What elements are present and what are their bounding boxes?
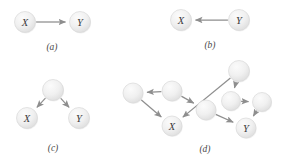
- panel-caption-a: (a): [46, 42, 57, 53]
- node-d-y[interactable]: Y: [236, 118, 257, 139]
- edge-d-n4-to-d-n5: [234, 82, 236, 88]
- node-circle[interactable]: [162, 81, 182, 101]
- node-circle[interactable]: [17, 108, 38, 129]
- node-a-x[interactable]: X: [15, 12, 37, 34]
- edge-c-u-to-c-y: [61, 98, 70, 107]
- node-circle[interactable]: [123, 83, 143, 103]
- edge-d-n2-to-d-n1: [147, 92, 161, 93]
- node-circle[interactable]: [162, 116, 182, 136]
- node-circle[interactable]: [70, 12, 91, 33]
- node-circle[interactable]: [229, 10, 250, 31]
- node-a-y[interactable]: Y: [70, 12, 92, 34]
- edge-d-n2-to-d-n3: [181, 96, 194, 103]
- node-d-x[interactable]: X: [162, 116, 183, 137]
- node-d-n1[interactable]: [123, 83, 144, 104]
- node-circle[interactable]: [15, 12, 36, 33]
- node-b-y[interactable]: Y: [229, 10, 251, 32]
- node-circle[interactable]: [229, 61, 250, 82]
- edge-d-n1-to-d-x: [141, 100, 161, 117]
- edge-d-n6-to-d-y: [253, 111, 256, 116]
- node-d-n3[interactable]: [196, 100, 217, 121]
- figure-canvas: XYXYXYXY (a)(b)(c)(d): [0, 0, 285, 163]
- panel-caption-b: (b): [204, 40, 215, 51]
- node-d-n2[interactable]: [162, 81, 183, 102]
- nodes-layer: XYXYXYXY: [15, 10, 273, 139]
- node-b-x[interactable]: X: [171, 10, 193, 32]
- node-circle[interactable]: [253, 93, 272, 112]
- node-circle[interactable]: [236, 118, 256, 138]
- panel-caption-d: (d): [199, 144, 210, 155]
- node-d-n5[interactable]: [222, 92, 242, 112]
- causal-graph-figure: XYXYXYXY (a)(b)(c)(d): [0, 0, 285, 163]
- edge-d-n3-to-d-y: [216, 114, 234, 122]
- node-d-n6[interactable]: [253, 93, 273, 113]
- node-c-y[interactable]: Y: [69, 108, 91, 130]
- panel-caption-c: (c): [48, 143, 59, 154]
- node-circle[interactable]: [222, 92, 241, 111]
- node-circle[interactable]: [69, 108, 90, 129]
- node-circle[interactable]: [43, 80, 64, 101]
- node-d-n4[interactable]: [229, 61, 251, 83]
- edge-c-u-to-c-x: [37, 98, 46, 107]
- node-circle[interactable]: [196, 100, 216, 120]
- node-c-x[interactable]: X: [17, 108, 39, 130]
- node-circle[interactable]: [171, 10, 192, 31]
- node-c-u[interactable]: [43, 80, 65, 102]
